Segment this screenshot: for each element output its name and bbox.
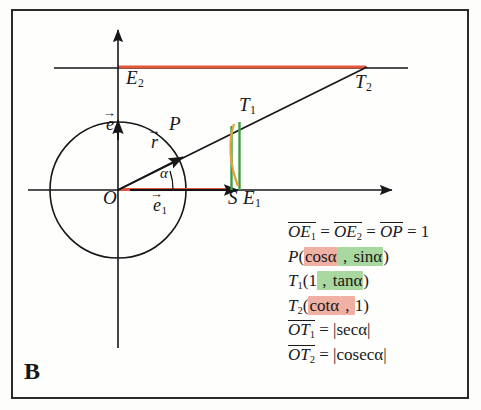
label-O: O xyxy=(103,188,117,207)
paren-close-T1: ) xyxy=(363,271,369,290)
label-E1: E1 xyxy=(243,188,261,210)
label-vector-e2: →e2 xyxy=(106,115,120,135)
equals-sec: = xyxy=(315,320,333,339)
segment-OT2: OT2 xyxy=(288,345,315,365)
vector-arrow-icon: → xyxy=(147,124,160,137)
formula-list: OE1 = OE2 = OP = 1 P(cosα , sinα) T1(1 ,… xyxy=(288,222,468,369)
label-angle-alpha: α xyxy=(160,166,168,181)
panel-label: B xyxy=(24,358,40,385)
value-cos-alpha: cosα xyxy=(304,247,338,266)
value-sin-alpha: sinα xyxy=(352,247,383,266)
comma-P: , xyxy=(338,247,353,266)
formula-point-T1: T1(1 , tanα) xyxy=(288,271,468,296)
formula-sec: OT1 = |secα| xyxy=(288,320,468,345)
vector-arrow-icon: → xyxy=(150,187,163,200)
label-T2: T2 xyxy=(355,72,372,94)
segment-OE1: OE1 xyxy=(288,222,316,242)
figure-panel: E2 E1 O P S T1 T2 α →e1 →e2 →r B OE1 = O… xyxy=(0,0,481,410)
equals-1: = xyxy=(316,222,334,241)
formula-unit-lengths: OE1 = OE2 = OP = 1 xyxy=(288,222,468,247)
formula-point-P: P(cosα , sinα) xyxy=(288,247,468,272)
value-cot-alpha: cotα xyxy=(308,296,340,315)
equals-one: = 1 xyxy=(403,222,430,241)
label-T1: T1 xyxy=(239,95,256,117)
angle-arc-alpha xyxy=(170,171,173,190)
equals-2: = xyxy=(362,222,380,241)
segment-OP: OP xyxy=(380,222,403,241)
formula-P-name: P xyxy=(288,247,298,266)
label-vector-r: →r xyxy=(151,133,158,151)
vector-arrow-icon: → xyxy=(103,106,116,119)
label-S: S xyxy=(228,188,238,207)
paren-close-P: ) xyxy=(383,247,389,266)
segment-OT1: OT1 xyxy=(288,320,315,340)
paren-close-T2: ) xyxy=(363,296,369,315)
comma-T1: , xyxy=(317,271,332,290)
comma-T2: , xyxy=(340,296,355,315)
value-one-T1: 1 xyxy=(308,271,317,290)
formula-point-T2: T2(cotα , 1) xyxy=(288,296,468,321)
equals-cosec: = xyxy=(315,345,333,364)
value-sec-alpha: |secα| xyxy=(333,320,370,339)
label-vector-e1: →e1 xyxy=(153,196,167,216)
label-E2: E2 xyxy=(126,68,144,90)
segment-OE2: OE2 xyxy=(334,222,362,242)
label-P: P xyxy=(169,114,181,133)
value-tan-alpha: tanα xyxy=(332,271,364,290)
formula-cosec: OT2 = |cosecα| xyxy=(288,345,468,370)
value-cosec-alpha: |cosecα| xyxy=(333,345,386,364)
